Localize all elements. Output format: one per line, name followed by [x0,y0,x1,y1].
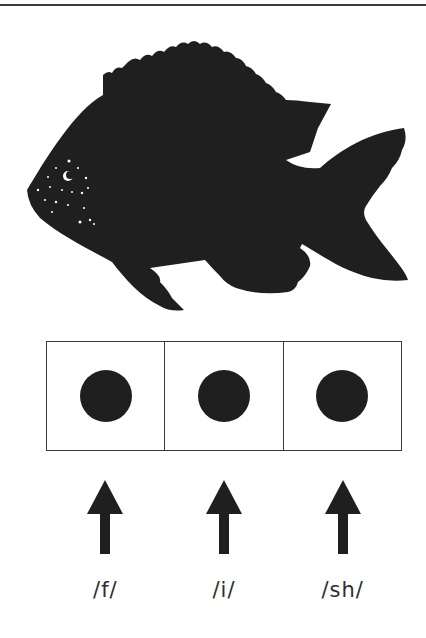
phoneme-label-i: /i/ [165,578,284,610]
elkonin-boxes [46,341,402,451]
arrow-1 [46,478,165,558]
phoneme-labels: /f/ /i/ /sh/ [46,578,402,610]
sound-box-3 [283,342,401,450]
arrow-2 [165,478,284,558]
arrow-up-icon [85,478,125,556]
arrow-up-icon [204,478,244,556]
sound-box-1 [47,342,164,450]
filled-circle-token [316,370,368,422]
arrow-3 [283,478,402,558]
fish-icon [0,0,426,330]
arrow-up-icon [323,478,363,556]
filled-circle-token [198,370,250,422]
filled-circle-token [80,370,132,422]
sound-box-2 [164,342,282,450]
arrow-row [46,478,402,558]
phoneme-label-f: /f/ [46,578,165,610]
phoneme-label-sh: /sh/ [283,578,402,610]
